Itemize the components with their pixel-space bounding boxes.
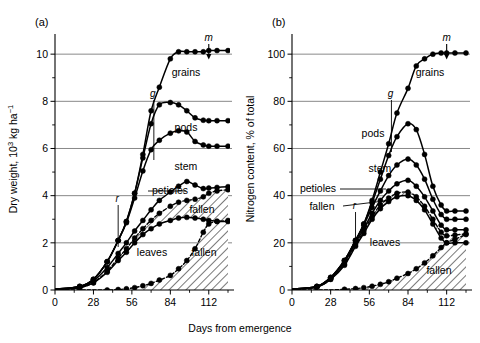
data-point xyxy=(193,183,198,188)
data-point xyxy=(452,217,457,222)
data-point xyxy=(168,131,173,136)
data-point xyxy=(394,276,399,281)
data-point xyxy=(386,141,391,146)
data-point xyxy=(140,226,145,231)
data-point xyxy=(414,194,419,199)
data-point xyxy=(452,227,457,232)
data-point xyxy=(430,208,435,213)
data-point xyxy=(149,147,154,152)
data-point xyxy=(406,86,411,91)
data-point xyxy=(201,186,206,191)
data-point xyxy=(157,138,162,143)
data-point xyxy=(342,258,347,263)
data-point xyxy=(464,240,469,245)
y-tick-label: 100 xyxy=(267,48,285,60)
series-label-grains-a: grains xyxy=(172,66,201,78)
series-label-stem-b: stem xyxy=(369,162,392,174)
panel-a-letter: (a) xyxy=(35,16,48,28)
data-point xyxy=(414,266,419,271)
data-point xyxy=(386,188,391,193)
y-tick-label: 80 xyxy=(273,95,285,107)
panel-b-letter: (b) xyxy=(272,16,285,28)
series-label-stem-a: stem xyxy=(175,160,198,172)
annotation-label-g: g xyxy=(150,88,156,99)
data-point xyxy=(157,278,162,283)
panel-a: 02468100285684112 mgr (a) Dry weight, 10… xyxy=(0,0,240,343)
y-tick-label: 6 xyxy=(42,142,48,154)
series-label-pods-a: pods xyxy=(175,121,198,133)
data-point xyxy=(105,265,110,270)
data-point xyxy=(439,230,444,235)
data-point xyxy=(439,50,444,55)
data-point xyxy=(193,216,198,221)
data-point xyxy=(226,48,231,53)
y-tick-label: 60 xyxy=(273,142,285,154)
data-point xyxy=(378,198,383,203)
y-tick-label: 0 xyxy=(279,284,285,296)
x-axis-title: Days from emergence xyxy=(188,322,291,334)
data-point xyxy=(422,152,427,157)
data-point xyxy=(386,279,391,284)
data-point xyxy=(140,168,145,173)
data-point xyxy=(124,286,129,291)
data-point xyxy=(140,232,145,237)
data-point xyxy=(226,118,231,123)
annotation-label-r: r xyxy=(353,200,357,211)
data-point xyxy=(184,108,189,113)
x-tick-label: 56 xyxy=(126,296,138,308)
panel-b-svg: 0204060801000285684112 mgr (b) Nitrogen … xyxy=(240,0,480,343)
data-point xyxy=(328,275,333,280)
data-point xyxy=(105,259,110,264)
data-point xyxy=(132,196,137,201)
data-point xyxy=(176,102,181,107)
data-point xyxy=(378,282,383,287)
y-tick-label: 8 xyxy=(42,95,48,107)
series-label-leaves-a: leaves xyxy=(137,246,167,258)
data-point xyxy=(452,233,457,238)
x-tick-label: 0 xyxy=(289,296,295,308)
data-point xyxy=(132,285,137,290)
data-point xyxy=(361,285,366,290)
data-point xyxy=(124,219,129,224)
data-point xyxy=(342,287,347,292)
data-point xyxy=(157,211,162,216)
data-point xyxy=(452,240,457,245)
data-point xyxy=(176,49,181,54)
x-tick-label: 112 xyxy=(438,296,455,308)
data-point xyxy=(149,281,154,286)
x-tick-label: 84 xyxy=(402,296,414,308)
data-point xyxy=(422,204,427,209)
data-point xyxy=(378,203,383,208)
data-point xyxy=(201,142,206,147)
data-point xyxy=(444,227,449,232)
figure-root: 02468100285684112 mgr (a) Dry weight, 10… xyxy=(0,0,480,343)
data-point xyxy=(406,121,411,126)
data-point xyxy=(206,186,211,191)
data-point xyxy=(439,245,444,250)
x-tick-label: 84 xyxy=(164,296,176,308)
data-point xyxy=(206,144,211,149)
annotation-label-m: m xyxy=(205,32,213,43)
data-point xyxy=(386,153,391,158)
data-point xyxy=(414,163,419,168)
data-point xyxy=(149,108,154,113)
panel-b-y-axis-title: Nitrogen content, % of total xyxy=(244,96,256,223)
data-point xyxy=(201,118,206,123)
x-tick-label: 28 xyxy=(88,296,100,308)
data-point xyxy=(149,121,154,126)
data-point xyxy=(215,48,220,53)
data-point xyxy=(430,52,435,57)
data-point xyxy=(430,253,435,258)
data-point xyxy=(215,118,220,123)
data-point xyxy=(132,236,137,241)
data-point xyxy=(124,246,129,251)
data-point xyxy=(91,277,96,282)
data-point xyxy=(149,226,154,231)
data-point xyxy=(157,85,162,90)
data-point xyxy=(176,266,181,271)
data-point xyxy=(206,191,211,196)
series-label-petioles-b: petioles xyxy=(300,182,336,194)
data-point xyxy=(444,240,449,245)
data-point xyxy=(206,218,211,223)
series-label-fallen-petioles-a: fallen xyxy=(189,203,214,215)
